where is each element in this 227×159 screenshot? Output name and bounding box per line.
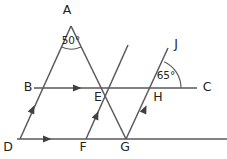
arrow-on-BC [73,84,81,91]
point-labels: A B C D E F G H J [3,2,211,154]
geometry-canvas: A B C D E F G H J 50° 65° [0,0,227,159]
angle-label-50: 50° [62,34,81,46]
label-C: C [203,79,212,94]
label-G: G [120,139,130,154]
angle-value-labels: 50° 65° [62,34,176,81]
label-F: F [79,139,86,154]
angle-arcs [61,47,181,88]
label-J: J [173,36,178,51]
label-D: D [3,139,13,154]
arrow-on-FE [92,110,102,121]
arrow-on-DG [43,135,51,142]
label-A: A [63,2,72,17]
geometry-diagram: A B C D E F G H J 50° 65° [0,0,227,159]
line-F-up [86,45,128,139]
arc-50-at-A [61,47,81,49]
label-B: B [24,79,33,94]
figure-lines [17,26,227,139]
label-E: E [94,89,102,104]
angle-label-65: 65° [157,69,176,81]
arrow-on-DA [28,104,38,115]
label-H: H [153,89,162,104]
